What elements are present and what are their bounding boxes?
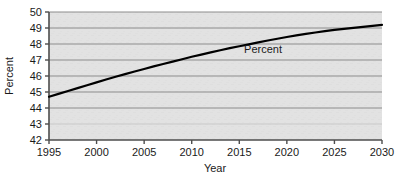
series-annotation-label: Percent — [244, 43, 282, 55]
x-tick-label-1995: 1995 — [37, 146, 61, 158]
y-tick-label-44: 44 — [30, 102, 42, 114]
y-axis-tick-labels: 424344454647484950 — [30, 6, 42, 146]
y-tick-label-47: 47 — [30, 54, 42, 66]
chart-container: 424344454647484950 199520002005201020152… — [0, 0, 402, 179]
y-tick-label-43: 43 — [30, 118, 42, 130]
series-annotation-group: Percent — [244, 43, 282, 55]
x-axis-title: Year — [204, 162, 227, 174]
y-tick-label-46: 46 — [30, 70, 42, 82]
y-axis-title: Percent — [3, 57, 15, 95]
x-tick-label-2005: 2005 — [132, 146, 156, 158]
percent-by-year-line-chart: 424344454647484950 199520002005201020152… — [0, 0, 402, 179]
x-tick-label-2015: 2015 — [227, 146, 251, 158]
x-tick-label-2010: 2010 — [179, 146, 203, 158]
y-tick-label-49: 49 — [30, 22, 42, 34]
x-tick-label-2030: 2030 — [370, 146, 394, 158]
y-tick-label-45: 45 — [30, 86, 42, 98]
y-tick-label-48: 48 — [30, 38, 42, 50]
y-tick-label-50: 50 — [30, 6, 42, 18]
x-tick-label-2025: 2025 — [322, 146, 346, 158]
x-tick-label-2000: 2000 — [84, 146, 108, 158]
x-tick-label-2020: 2020 — [275, 146, 299, 158]
y-tick-label-42: 42 — [30, 134, 42, 146]
